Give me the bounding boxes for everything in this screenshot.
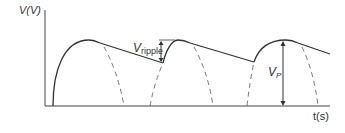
dashed-arc-1-fall: [104, 47, 124, 106]
dashed-arc-3-rise: [247, 62, 254, 106]
ripple-label: Vripple: [133, 41, 163, 56]
recharge-2: [163, 40, 190, 63]
dashed-arc-3-fall: [302, 47, 318, 106]
dashed-arc-2-fall: [194, 47, 213, 106]
ripple-arrow-up-icon: [159, 41, 164, 45]
y-axis-label: V(V): [19, 4, 41, 16]
peak-arrow-down-icon: [281, 101, 286, 106]
peak-label: VP: [268, 65, 282, 80]
ripple-diagram: Vripple VP V(V) t(s): [0, 0, 345, 133]
unfiltered-half-sines: [104, 47, 318, 106]
peak-arrow-up-icon: [281, 41, 286, 46]
first-rise: [53, 40, 100, 106]
filtered-output: [53, 40, 330, 106]
recharge-3: [254, 40, 298, 62]
x-axis-label: t(s): [313, 110, 329, 122]
dashed-arc-2-rise: [150, 63, 163, 106]
